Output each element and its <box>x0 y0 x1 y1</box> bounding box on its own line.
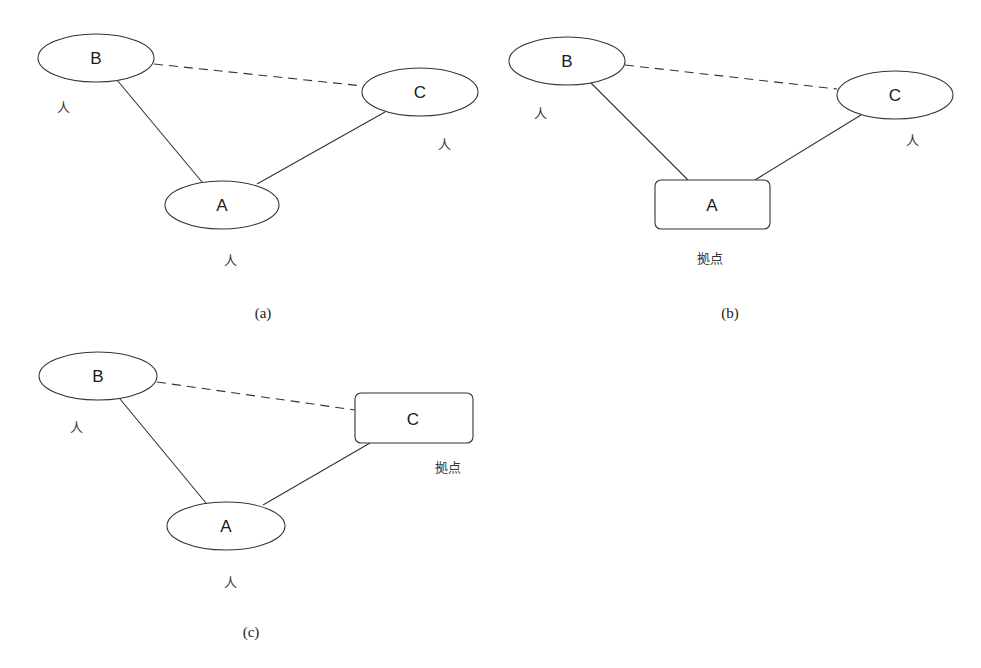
panel-a: B C A 人 人 人 (a) <box>38 34 478 322</box>
node-b: B <box>39 352 157 400</box>
node-c: C <box>355 393 473 443</box>
node-c-role-label: 人 <box>906 133 919 148</box>
node-b-label: B <box>90 49 101 68</box>
edge-b-c-dashed <box>157 382 355 410</box>
edge-b-c-dashed <box>154 64 363 86</box>
edge-b-a <box>120 399 206 503</box>
network-diagram-figure: B C A 人 人 人 (a) B C A 人 人 <box>0 0 981 668</box>
panel-a-caption: (a) <box>255 305 272 322</box>
node-b: B <box>38 34 154 82</box>
node-b-label: B <box>561 52 572 71</box>
edge-b-a <box>117 80 202 182</box>
node-a: A <box>165 181 279 229</box>
node-b-role-label: 人 <box>70 420 83 435</box>
node-c: C <box>362 68 478 116</box>
node-c-label: C <box>414 83 426 102</box>
node-b-label: B <box>92 367 103 386</box>
node-a-role-label: 拠点 <box>697 251 723 266</box>
node-c: C <box>837 71 953 119</box>
node-c-role-label: 人 <box>438 137 451 152</box>
node-c-label: C <box>407 410 419 429</box>
edge-b-c-dashed <box>625 65 837 89</box>
edge-c-a <box>263 443 370 505</box>
node-a-label: A <box>220 517 232 536</box>
node-a: A <box>655 180 770 229</box>
node-b-role-label: 人 <box>534 106 547 121</box>
node-c-label: C <box>889 86 901 105</box>
panel-c-caption: (c) <box>243 624 260 641</box>
node-a-label: A <box>706 196 718 215</box>
node-a-role-label: 人 <box>224 253 237 268</box>
edge-c-a <box>257 112 385 184</box>
node-c-role-label: 拠点 <box>435 460 461 475</box>
edge-b-a <box>591 83 688 180</box>
panel-b: B C A 人 人 拠点 (b) <box>509 37 953 322</box>
node-b: B <box>509 37 625 85</box>
panel-b-caption: (b) <box>721 305 739 322</box>
edge-c-a <box>755 115 861 180</box>
node-a-label: A <box>216 196 228 215</box>
panel-c: B C A 人 拠点 人 (c) <box>39 352 473 641</box>
node-a-role-label: 人 <box>224 575 237 590</box>
node-b-role-label: 人 <box>57 100 70 115</box>
node-a: A <box>167 502 285 550</box>
